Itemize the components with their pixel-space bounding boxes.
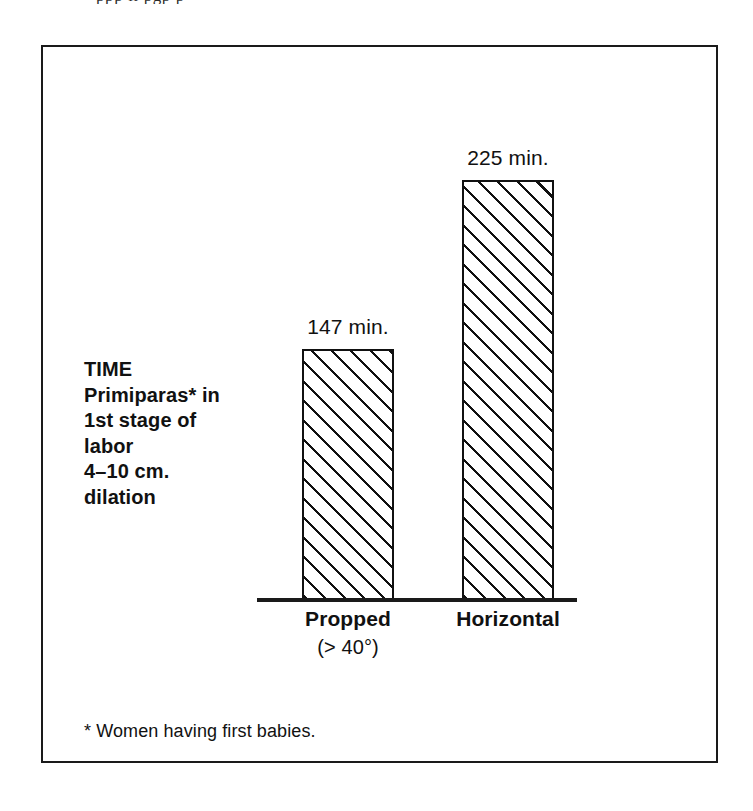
series-caption-line-6: dilation bbox=[84, 485, 274, 511]
figure-footnote: * Women having first babies. bbox=[84, 721, 316, 742]
series-caption: TIME Primiparas* in 1st stage of labor 4… bbox=[84, 357, 274, 510]
page-top-bleed-text: ppp ll pgp p bbox=[0, 0, 753, 4]
x-axis-label-horizontal-name: Horizontal bbox=[438, 607, 578, 631]
bar-horizontal bbox=[462, 180, 554, 600]
bar-propped bbox=[302, 349, 394, 600]
x-axis-label-propped-name: Propped bbox=[282, 607, 414, 631]
bar-value-label-horizontal: 225 min. bbox=[462, 146, 554, 170]
figure-frame: TIME Primiparas* in 1st stage of labor 4… bbox=[41, 45, 718, 763]
x-axis-baseline bbox=[257, 598, 577, 602]
x-axis-label-propped: Propped (> 40°) bbox=[282, 607, 414, 659]
series-caption-line-4: labor bbox=[84, 434, 274, 460]
x-axis-label-horizontal: Horizontal bbox=[438, 607, 578, 631]
x-axis-label-propped-sublabel: (> 40°) bbox=[282, 636, 414, 659]
series-caption-line-1: TIME bbox=[84, 357, 274, 383]
series-caption-line-5: 4–10 cm. bbox=[84, 459, 274, 485]
series-caption-line-3: 1st stage of bbox=[84, 408, 274, 434]
series-caption-line-2: Primiparas* in bbox=[84, 383, 274, 409]
plot-area: TIME Primiparas* in 1st stage of labor 4… bbox=[43, 47, 716, 761]
bar-value-label-propped: 147 min. bbox=[302, 315, 394, 339]
